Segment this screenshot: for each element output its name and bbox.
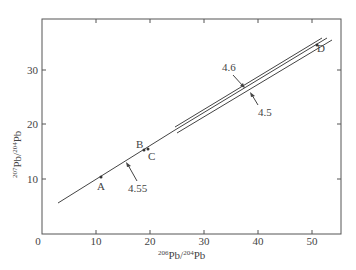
x-tick-label: 30 [199,235,211,247]
annotation-4-5: 4.5 [258,106,272,118]
annotation-4-55: 4.55 [128,182,148,194]
x-axis [96,19,312,234]
x-tick-label: 10 [91,235,103,247]
label-a: A [97,180,105,192]
label-d: D [317,42,325,54]
label-b: B [136,138,143,150]
x-tick-label: 20 [145,235,157,247]
arrow-head-icon [126,162,131,167]
x-tick-label: 0 [35,235,41,247]
y-tick-label: 20 [27,118,39,130]
y-tick-label: 10 [27,173,39,185]
data-points [100,44,319,179]
arrow-4-6 [233,75,243,86]
x-axis-title: 206Pb/204Pb [158,249,206,261]
arrow-4-55 [128,165,137,181]
arrow-head-icon [250,92,255,97]
x-tick-label: 50 [307,235,319,247]
x-tick-label: 40 [253,235,265,247]
y-tick-label: 30 [27,64,39,76]
isochron-lines-upper [175,38,332,133]
point-a [100,176,103,179]
y-axis-title: 207Pb/204Pb [11,130,23,178]
annotation-4-6: 4.6 [222,61,236,73]
chart-canvas: 0 10 20 30 40 50 10 20 30 206Pb/204Pb 20… [0,0,356,270]
plot-frame [42,19,341,234]
label-c: C [148,150,155,162]
isochron-line-lower [58,130,175,203]
